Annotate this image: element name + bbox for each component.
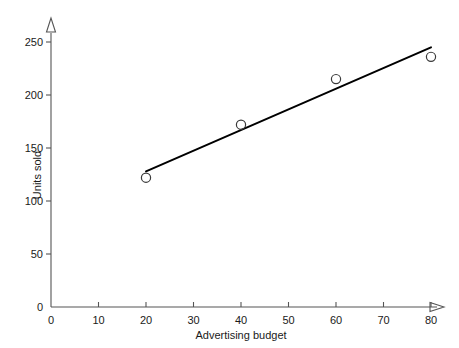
y-tick-label: 200 [21,90,43,101]
x-tick-label: 80 [425,315,437,326]
y-axis-title: Units sold [32,151,43,199]
ticks-group [46,42,431,307]
x-tick-label: 10 [92,315,104,326]
data-point-marker [426,52,435,61]
x-tick-label: 50 [282,315,294,326]
y-tick-label: 0 [21,302,43,313]
data-point-marker [236,120,245,129]
x-tick-label: 40 [235,315,247,326]
x-tick-label: 30 [187,315,199,326]
y-axis-arrowhead [47,18,56,32]
x-tick-label: 20 [140,315,152,326]
x-tick-label: 60 [330,315,342,326]
regression-line-group [146,47,431,171]
scatter-chart: 01020304050607080 050100150200250 Advert… [0,0,459,348]
plot-area [0,0,459,348]
x-tick-label: 70 [377,315,389,326]
y-tick-label: 50 [21,249,43,260]
data-points-group [141,52,435,182]
axes-group [47,18,445,312]
regression-line [146,47,431,171]
x-tick-label: 0 [48,315,54,326]
x-axis-title: Advertising budget [195,330,286,341]
data-point-marker [331,75,340,84]
data-point-marker [141,173,150,182]
y-tick-label: 250 [21,37,43,48]
